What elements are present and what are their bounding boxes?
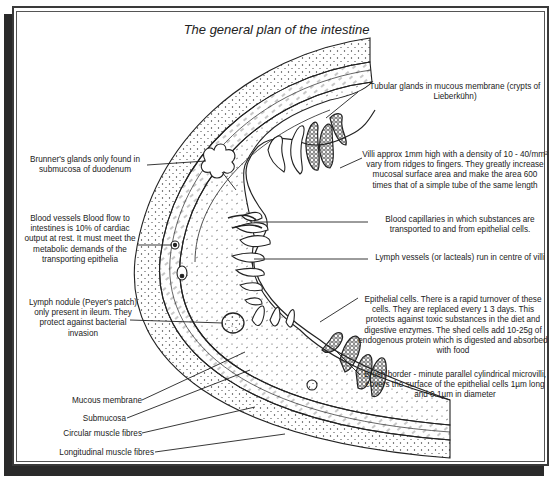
label-brunners-glands: Brunner's glands only found in submucosa… xyxy=(25,155,145,175)
label-villi: Villi approx 1mm high with a density of … xyxy=(362,150,548,191)
label-lymph-nodule: Lymph nodule (Peyer's patch) only presen… xyxy=(28,298,138,339)
label-submucosa: Submucosa xyxy=(60,414,126,424)
label-tubular-glands: Tubular glands in mucous membrane (crypt… xyxy=(360,82,550,102)
label-epithelial-cells: Epithelial cells. There is a rapid turno… xyxy=(358,295,548,356)
label-circular-muscle: Circular muscle fibres xyxy=(40,429,142,439)
label-blood-vessels: Blood vessels Blood flow to intestines i… xyxy=(22,214,138,265)
label-longitudinal-muscle: Longitudinal muscle fibres xyxy=(30,448,154,458)
label-mucous-membrane: Mucous membrane xyxy=(60,396,142,406)
figure-title: The general plan of the intestine xyxy=(0,22,553,37)
label-blood-capillaries: Blood capillaries in which substances ar… xyxy=(370,215,550,235)
lymph-nodule xyxy=(222,313,244,333)
label-brush-border: Brush border - minute parallel cylindric… xyxy=(362,370,548,401)
label-lymph-vessels: Lymph vessels (or lacteals) run in centr… xyxy=(370,253,550,263)
